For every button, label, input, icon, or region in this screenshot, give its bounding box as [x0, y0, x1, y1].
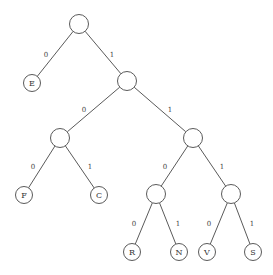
edge-label: 0: [132, 220, 136, 228]
edge-n111-V: [210, 203, 227, 244]
edge-label: 1: [88, 163, 92, 171]
edge-label: 1: [110, 51, 114, 59]
node-label: R: [129, 248, 136, 257]
edge-label: 1: [220, 163, 224, 171]
edge-label: 0: [31, 163, 35, 171]
leaf-node-R: R: [124, 244, 141, 261]
node-circle: [147, 185, 166, 204]
node-circle: [222, 185, 241, 204]
tree-nodes: EFCRNVS: [16, 15, 262, 261]
internal-node: [70, 15, 89, 34]
node-label: V: [203, 248, 210, 257]
edge-label: 0: [163, 163, 167, 171]
edge-n110-R: [135, 203, 152, 244]
leaf-node-N: N: [171, 244, 188, 261]
leaf-node-V: V: [199, 244, 216, 261]
internal-node: [118, 72, 137, 91]
node-label: F: [21, 191, 27, 200]
edge-label: 1: [168, 106, 172, 114]
edge-n1-n11: [134, 87, 186, 132]
node-circle: [118, 72, 137, 91]
edge-root-n1: [85, 31, 121, 73]
edge-n1-n10: [67, 87, 120, 132]
internal-node: [147, 185, 166, 204]
edge-label: 1: [176, 220, 180, 228]
binary-tree-diagram: 010101010101 EFCRNVS: [0, 0, 273, 275]
node-label: C: [96, 191, 102, 200]
edge-label: 0: [82, 106, 86, 114]
node-circle: [184, 129, 203, 148]
edge-label: 0: [44, 51, 48, 59]
edge-n110-N: [160, 203, 176, 244]
internal-node: [222, 185, 241, 204]
leaf-node-S: S: [245, 244, 262, 261]
leaf-node-F: F: [16, 187, 33, 204]
node-label: N: [176, 248, 183, 257]
leaf-node-E: E: [24, 75, 41, 92]
leaf-node-C: C: [91, 187, 108, 204]
edge-label: 0: [207, 220, 211, 228]
edge-n111-S: [234, 203, 250, 244]
node-circle: [70, 15, 89, 34]
node-label: E: [29, 79, 35, 88]
node-label: S: [250, 248, 255, 257]
edge-root-E: [37, 31, 73, 76]
internal-node: [184, 129, 203, 148]
internal-node: [51, 129, 70, 148]
node-circle: [51, 129, 70, 148]
edge-label: 1: [250, 220, 254, 228]
